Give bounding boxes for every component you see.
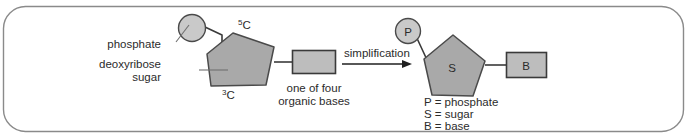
- carbon-3-letter: C: [226, 89, 234, 101]
- legend-item-phosphate: P = phosphate: [424, 96, 498, 108]
- simplification-label: simplification: [344, 47, 410, 59]
- phosphate-symbol: P: [404, 26, 412, 38]
- sugar-symbol: S: [448, 62, 456, 74]
- organic-base-label-line1: one of four: [287, 82, 342, 94]
- phosphate-label: phosphate: [107, 38, 161, 50]
- sugar-label-line2: sugar: [132, 71, 161, 83]
- legend-item-sugar: S = sugar: [424, 108, 474, 120]
- sugar-label-line1: deoxyribose: [99, 58, 161, 70]
- nucleotide-structure-figure: phosphate deoxyribose sugar 5C 3C one of…: [0, 0, 687, 138]
- carbon-5-letter: C: [242, 19, 250, 31]
- organic-base-label-line2: organic bases: [278, 95, 350, 107]
- legend-item-base: B = base: [424, 120, 470, 132]
- phosphate-circle: [179, 15, 206, 42]
- base-symbol: B: [522, 60, 530, 72]
- organic-base-rectangle: [293, 51, 336, 74]
- figure-canvas: phosphate deoxyribose sugar 5C 3C one of…: [0, 0, 687, 138]
